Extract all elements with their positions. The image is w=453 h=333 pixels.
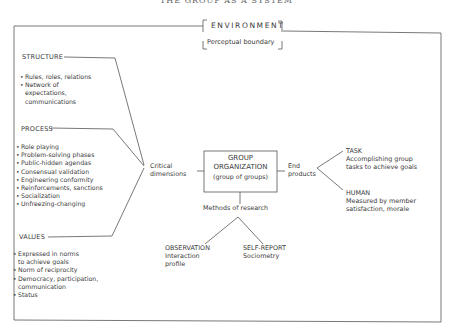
group-organization-box: GROUP ORGANIZATION (group of groups) bbox=[204, 154, 277, 181]
values-heading: VALUES bbox=[19, 233, 45, 241]
list-item: Network of expectations, communications bbox=[20, 81, 91, 106]
observation-block: OBSERVATION Interaction profile bbox=[165, 244, 210, 269]
list-item: Role playing bbox=[16, 143, 103, 151]
list-item: Consensual validation bbox=[16, 168, 103, 176]
critical-dimensions-label: Critical dimensions bbox=[150, 162, 186, 178]
end-products-label: End products bbox=[288, 162, 316, 178]
list-item: Socialization bbox=[16, 192, 103, 200]
methods-fork bbox=[205, 217, 263, 244]
process-heading: PROCESS bbox=[21, 125, 53, 133]
list-item: Expressed in norms to achieve goals bbox=[13, 250, 98, 266]
self-report-block: SELF-REPORT Sociometry bbox=[243, 244, 286, 260]
outer-boundary-bottom bbox=[14, 320, 441, 322]
human-heading: HUMAN bbox=[346, 189, 416, 197]
list-item: Unfreezing-changing bbox=[16, 200, 103, 208]
process-list: Role playing Problem-solving phases Publ… bbox=[16, 143, 103, 209]
task-heading: TASK bbox=[346, 147, 417, 155]
list-item: Democracy, participation, communication bbox=[13, 275, 98, 291]
list-item: Reinforcements, sanctions bbox=[16, 184, 103, 192]
environment-subtitle: Perceptual boundary bbox=[207, 38, 274, 46]
values-list: Expressed in norms to achieve goals Norm… bbox=[13, 250, 98, 299]
list-item: Status bbox=[13, 291, 98, 299]
list-item: Public-hidden agendas bbox=[16, 159, 103, 167]
methods-of-research-label: Methods of research bbox=[203, 204, 268, 212]
human-block: HUMAN Measured by member satisfaction, m… bbox=[346, 189, 416, 214]
environment-title: ENVIRONMENT bbox=[211, 21, 284, 30]
list-item: Norm of reciprocity bbox=[13, 266, 98, 274]
list-item: Rules, roles, relations bbox=[20, 73, 91, 81]
end-products-fork bbox=[317, 151, 343, 190]
list-item: Engineering conformity bbox=[16, 176, 103, 184]
list-item: Problem-solving phases bbox=[16, 151, 103, 159]
structure-heading: STRUCTURE bbox=[22, 53, 63, 61]
structure-list: Rules, roles, relations Network of expec… bbox=[20, 73, 91, 106]
self-report-heading: SELF-REPORT bbox=[243, 244, 286, 252]
task-block: TASK Accomplishing group tasks to achiev… bbox=[346, 147, 417, 172]
environment-left-bracket-top bbox=[203, 20, 207, 32]
observation-heading: OBSERVATION bbox=[165, 244, 210, 252]
environment-right-bracket-bottom bbox=[278, 41, 282, 49]
